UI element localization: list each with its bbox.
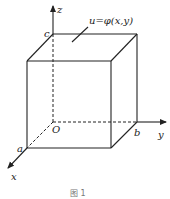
hidden-x-edge xyxy=(27,122,53,148)
point-b-label: b xyxy=(134,127,140,138)
y-axis-label: y xyxy=(157,129,164,140)
origin-label: O xyxy=(52,124,60,135)
box-edges xyxy=(27,34,137,148)
z-axis-label: z xyxy=(56,4,63,15)
x-axis-label: x xyxy=(11,171,17,182)
surface-annotation: u=φ(x,y) xyxy=(89,15,133,26)
point-c-label: c xyxy=(44,28,50,39)
figure-caption: 图 1 xyxy=(70,189,86,198)
box-diagram: z y x O a b c u=φ(x,y) 图 1 xyxy=(0,0,170,199)
point-a-label: a xyxy=(17,143,23,154)
